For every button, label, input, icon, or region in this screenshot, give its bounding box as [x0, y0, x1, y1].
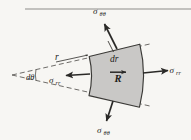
label-angle-increment: dθ	[26, 72, 34, 82]
label-stress-radial-left-subscript: rr	[56, 79, 61, 86]
label-stress-hoop-top: σ θθ	[93, 6, 106, 17]
dr-tick	[108, 41, 114, 52]
label-stress-hoop-top-subscript: θθ	[100, 10, 106, 17]
label-stress-radial-left: σ rr	[49, 75, 61, 86]
label-stress-radial-left-symbol: σ	[49, 75, 54, 85]
label-stress-radial-right-symbol: σ	[170, 65, 175, 75]
label-stress-radial-right-subscript: rr	[176, 69, 181, 76]
label-stress-hoop-bottom-symbol: σ	[97, 125, 102, 135]
label-stress-radial-right: σ rr	[170, 65, 182, 76]
radius-arrow	[56, 55, 88, 62]
label-position-vector: R	[114, 73, 122, 84]
label-radial-thickness: dr	[110, 54, 119, 64]
label-stress-hoop-bottom-subscript: θθ	[104, 129, 110, 136]
label-stress-hoop-bottom: σ θθ	[97, 125, 110, 136]
stress-arrow-hoop-bottom	[107, 101, 114, 121]
label-radius: r	[55, 52, 59, 62]
label-stress-hoop-top-symbol: σ	[93, 6, 98, 16]
angle-arc	[35, 70, 36, 81]
stress-element-diagram: σ θθ σ θθ σ rr σ rr r dr R dθ	[0, 0, 191, 140]
figure-container: σ θθ σ θθ σ rr σ rr r dr R dθ	[0, 0, 191, 140]
stress-arrow-hoop-top	[105, 24, 118, 49]
stress-arrow-radial-right	[143, 71, 168, 74]
stress-arrow-radial-left	[66, 74, 90, 76]
